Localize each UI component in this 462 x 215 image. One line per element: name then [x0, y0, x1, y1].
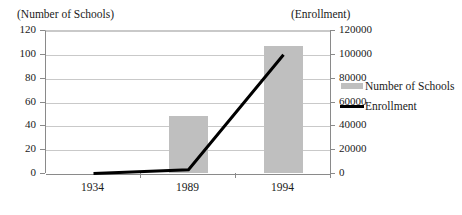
- plot-area: [45, 30, 330, 173]
- line-swatch-icon: [339, 105, 365, 108]
- legend-item-enrollment: Enrollment: [339, 96, 459, 116]
- left-axis-tick-label: 120: [0, 24, 36, 35]
- x-axis-tick: [330, 173, 331, 178]
- left-axis-tick-label: 80: [0, 72, 36, 83]
- legend-label-number-of-schools: Number of Schools: [365, 80, 454, 93]
- right-axis-tick-label: 120000: [339, 24, 372, 35]
- right-axis-tick: [330, 30, 335, 31]
- left-axis-tick: [40, 30, 45, 31]
- left-axis-tick-label: 100: [0, 48, 36, 59]
- chart-legend: Number of Schools Enrollment: [339, 76, 459, 116]
- left-axis-tick: [40, 54, 45, 55]
- left-axis-tick-label: 60: [0, 96, 36, 107]
- left-axis-tick: [40, 149, 45, 150]
- right-axis-tick-label: 20000: [339, 143, 367, 154]
- x-axis-tick: [140, 173, 141, 178]
- left-axis-tick-label: 0: [0, 167, 36, 178]
- left-axis-tick: [40, 125, 45, 126]
- left-axis-tick-label: 20: [0, 143, 36, 154]
- left-axis-tick: [40, 173, 45, 174]
- right-axis-tick-label: 0: [339, 167, 345, 178]
- right-axis-tick: [330, 102, 335, 103]
- right-axis-tick: [330, 149, 335, 150]
- left-axis-tick: [40, 78, 45, 79]
- bar: [169, 116, 209, 173]
- right-axis-tick: [330, 54, 335, 55]
- bar-swatch-icon: [339, 83, 365, 89]
- right-axis-tick-label: 40000: [339, 119, 367, 130]
- left-axis-tick-label: 40: [0, 119, 36, 130]
- legend-item-number-of-schools: Number of Schools: [339, 76, 459, 96]
- legend-label-enrollment: Enrollment: [365, 100, 417, 113]
- right-axis-tick: [330, 125, 335, 126]
- x-axis-tick-label: 1934: [63, 181, 123, 193]
- right-axis-tick: [330, 78, 335, 79]
- x-axis-tick: [235, 173, 236, 178]
- left-axis-title: (Number of Schools): [17, 8, 114, 21]
- right-axis-title: (Enrollment): [291, 8, 350, 21]
- gridline: [46, 31, 330, 32]
- x-axis-tick-label: 1989: [158, 181, 218, 193]
- chart-figure: (Number of Schools) (Enrollment) 0204060…: [0, 0, 462, 215]
- bar: [264, 46, 304, 174]
- x-axis-tick-label: 1994: [253, 181, 313, 193]
- right-axis-tick-label: 100000: [339, 48, 372, 59]
- gridline: [46, 174, 330, 175]
- left-axis-tick: [40, 102, 45, 103]
